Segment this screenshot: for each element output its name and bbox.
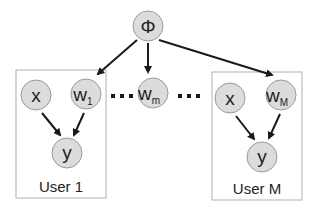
node-wM: wM [265, 80, 296, 110]
edge-w1-y-left [74, 113, 84, 135]
ellipsis-right [178, 94, 200, 98]
ellipsis-left [111, 94, 133, 98]
node-y-left: y [52, 138, 82, 168]
edge-phi-wM [159, 40, 272, 75]
edge-x-y-left [42, 113, 60, 135]
node-x-left: x [21, 80, 51, 110]
node-phi: Φ [133, 11, 163, 41]
svg-text:x: x [31, 85, 41, 106]
node-y-right: y [247, 142, 277, 172]
node-x-right: x [215, 83, 245, 113]
svg-text:y: y [257, 146, 267, 167]
edge-x-y-right [236, 116, 254, 139]
plate-label-user-1: User 1 [39, 178, 83, 195]
node-w-m: wm [137, 78, 168, 108]
plate-label-user-m: User M [233, 180, 281, 197]
edge-wM-y-right [269, 114, 280, 138]
node-w1: w1 [71, 79, 101, 109]
svg-text:Φ: Φ [140, 16, 155, 37]
graphical-model-diagram: User 1 User M Φ wm x w [0, 0, 317, 212]
svg-text:x: x [225, 88, 235, 109]
svg-text:y: y [62, 142, 72, 163]
edge-phi-w1 [98, 40, 137, 74]
